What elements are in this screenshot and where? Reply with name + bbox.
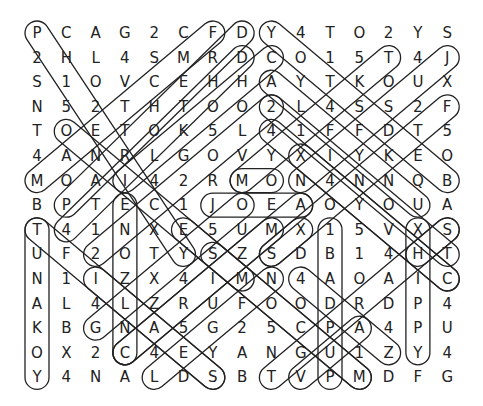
letter-cell[interactable]: N	[257, 267, 285, 291]
letter-cell[interactable]: Z	[375, 341, 403, 365]
letter-cell[interactable]: 4	[140, 341, 168, 365]
letter-cell[interactable]: 4	[433, 341, 461, 365]
letter-cell[interactable]: A	[82, 169, 110, 193]
letter-cell[interactable]: I	[316, 144, 344, 168]
letter-cell[interactable]: I	[82, 267, 110, 291]
letter-cell[interactable]: 4	[140, 169, 168, 193]
letter-cell[interactable]: D	[228, 21, 256, 45]
letter-cell[interactable]: O	[287, 46, 315, 70]
letter-cell[interactable]: P	[52, 193, 80, 217]
letter-cell[interactable]: U	[228, 218, 256, 242]
letter-cell[interactable]: K	[170, 119, 198, 143]
letter-cell[interactable]: U	[404, 70, 432, 94]
letter-cell[interactable]: D	[170, 365, 198, 389]
letter-cell[interactable]: K	[345, 70, 373, 94]
letter-cell[interactable]: V	[375, 218, 403, 242]
letter-cell[interactable]: 4	[375, 316, 403, 340]
letter-cell[interactable]: B	[52, 316, 80, 340]
letter-cell[interactable]: A	[23, 292, 51, 316]
letter-cell[interactable]: A	[52, 144, 80, 168]
letter-cell[interactable]: C	[433, 267, 461, 291]
letter-cell[interactable]: 4	[52, 218, 80, 242]
letter-cell[interactable]: 2	[140, 21, 168, 45]
letter-cell[interactable]: I	[199, 267, 227, 291]
letter-cell[interactable]: R	[199, 169, 227, 193]
letter-cell[interactable]: 1	[170, 193, 198, 217]
letter-cell[interactable]: O	[199, 95, 227, 119]
letter-cell[interactable]: E	[170, 341, 198, 365]
letter-cell[interactable]: 4	[52, 365, 80, 389]
letter-cell[interactable]: 2	[82, 341, 110, 365]
letter-cell[interactable]: T	[82, 193, 110, 217]
letter-cell[interactable]: C	[170, 21, 198, 45]
letter-cell[interactable]: X	[287, 218, 315, 242]
letter-cell[interactable]: S	[345, 95, 373, 119]
letter-cell[interactable]: 5	[433, 119, 461, 143]
letter-cell[interactable]: A	[287, 193, 315, 217]
letter-cell[interactable]: O	[52, 169, 80, 193]
letter-cell[interactable]: E	[170, 70, 198, 94]
letter-cell[interactable]: U	[23, 242, 51, 266]
letter-cell[interactable]: S	[433, 21, 461, 45]
letter-cell[interactable]: T	[404, 119, 432, 143]
letter-cell[interactable]: Q	[404, 169, 432, 193]
letter-cell[interactable]: M	[228, 267, 256, 291]
letter-cell[interactable]: 4	[316, 95, 344, 119]
letter-cell[interactable]: A	[375, 267, 403, 291]
letter-cell[interactable]: 5	[199, 218, 227, 242]
letter-cell[interactable]: Z	[140, 292, 168, 316]
letter-cell[interactable]: T	[23, 119, 51, 143]
letter-cell[interactable]: F	[199, 21, 227, 45]
letter-cell[interactable]: 4	[287, 267, 315, 291]
letter-cell[interactable]: L	[82, 46, 110, 70]
letter-cell[interactable]: Y	[257, 144, 285, 168]
letter-cell[interactable]: V	[111, 70, 139, 94]
letter-cell[interactable]: F	[404, 365, 432, 389]
letter-cell[interactable]: S	[375, 95, 403, 119]
letter-cell[interactable]: M	[170, 46, 198, 70]
letter-cell[interactable]: O	[23, 341, 51, 365]
letter-cell[interactable]: O	[82, 70, 110, 94]
letter-cell[interactable]: 1	[316, 218, 344, 242]
letter-cell[interactable]: O	[375, 193, 403, 217]
letter-cell[interactable]: U	[433, 316, 461, 340]
letter-cell[interactable]: 2	[375, 21, 403, 45]
letter-cell[interactable]: 5	[345, 46, 373, 70]
letter-cell[interactable]: S	[199, 242, 227, 266]
letter-cell[interactable]: V	[287, 365, 315, 389]
letter-cell[interactable]: T	[111, 95, 139, 119]
letter-cell[interactable]: P	[404, 316, 432, 340]
letter-cell[interactable]: U	[404, 193, 432, 217]
letter-cell[interactable]: 4	[375, 242, 403, 266]
letter-cell[interactable]: T	[111, 119, 139, 143]
letter-cell[interactable]: B	[316, 242, 344, 266]
letter-cell[interactable]: E	[111, 193, 139, 217]
letter-cell[interactable]: L	[111, 292, 139, 316]
letter-cell[interactable]: 2	[82, 95, 110, 119]
letter-cell[interactable]: 4	[23, 144, 51, 168]
letter-cell[interactable]: H	[199, 70, 227, 94]
letter-cell[interactable]: T	[316, 70, 344, 94]
letter-cell[interactable]: O	[345, 267, 373, 291]
letter-cell[interactable]: C	[140, 70, 168, 94]
letter-cell[interactable]: N	[375, 169, 403, 193]
letter-cell[interactable]: A	[140, 316, 168, 340]
letter-cell[interactable]: 1	[287, 119, 315, 143]
letter-cell[interactable]: P	[404, 292, 432, 316]
letter-cell[interactable]: O	[375, 70, 403, 94]
letter-cell[interactable]: 4	[433, 292, 461, 316]
letter-cell[interactable]: T	[23, 218, 51, 242]
letter-cell[interactable]: N	[111, 218, 139, 242]
letter-cell[interactable]: C	[140, 193, 168, 217]
letter-cell[interactable]: K	[23, 316, 51, 340]
letter-cell[interactable]: R	[111, 144, 139, 168]
letter-cell[interactable]: 5	[199, 119, 227, 143]
letter-cell[interactable]: 2	[170, 169, 198, 193]
letter-cell[interactable]: T	[375, 46, 403, 70]
letter-cell[interactable]: N	[82, 365, 110, 389]
letter-cell[interactable]: 4	[257, 119, 285, 143]
letter-cell[interactable]: O	[140, 119, 168, 143]
letter-cell[interactable]: 2	[257, 95, 285, 119]
letter-cell[interactable]: G	[82, 316, 110, 340]
letter-cell[interactable]: X	[287, 144, 315, 168]
